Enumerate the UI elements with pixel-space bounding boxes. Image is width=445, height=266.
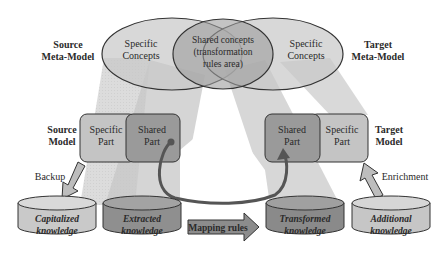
enrichment-arrow xyxy=(360,163,383,199)
transformation-start-dot xyxy=(168,139,175,146)
target-shared-part-line1: Shared xyxy=(278,124,306,135)
target-specific-part-line2: Part xyxy=(334,136,350,147)
source-meta-model-label-line1: Source xyxy=(53,39,83,50)
shared-concepts-line3: rules area) xyxy=(203,59,243,70)
source-specific-concepts-line2: Concepts xyxy=(122,50,159,61)
enrichment-label: Enrichment xyxy=(382,171,429,182)
source-meta-model-label-line2: Meta-Model xyxy=(42,51,95,62)
database-extracted-line2: knowledge xyxy=(121,226,163,236)
target-specific-concepts-line1: Specific xyxy=(290,38,323,49)
source-model-label-line2: Model xyxy=(48,136,75,147)
source-shared-part-line2: Part xyxy=(144,136,160,147)
mapping-rules-label: Mapping rules xyxy=(188,223,248,233)
database-capitalized-line2: knowledge xyxy=(36,226,78,236)
database-transformed-line2: knowledge xyxy=(284,226,326,236)
shared-concepts-line1: Shared concepts xyxy=(192,35,254,45)
arrow-down-left-icon xyxy=(62,162,85,199)
source-specific-concepts-line1: Specific xyxy=(125,38,158,49)
arrow-up-left-icon xyxy=(360,163,383,199)
database-additional-line2: knowledge xyxy=(370,226,412,236)
source-specific-part-line1: Specific xyxy=(90,124,123,135)
backup-label: Backup xyxy=(35,171,66,182)
target-shared-part-line2: Part xyxy=(284,136,300,147)
target-meta-model-label-line2: Meta-Model xyxy=(352,51,405,62)
source-shared-part-line1: Shared xyxy=(138,124,166,135)
source-model-label-line1: Source xyxy=(47,124,77,135)
target-meta-model-label-line1: Target xyxy=(364,39,393,50)
database-capitalized-line1: Capitalized xyxy=(35,214,79,224)
transformation-diagram: Specific Concepts Specific Concepts Shar… xyxy=(0,0,445,266)
target-model-label-line2: Model xyxy=(375,136,402,147)
backup-arrow xyxy=(62,162,85,199)
database-extracted-line1: Extracted xyxy=(122,214,161,224)
database-transformed-line1: Transformed xyxy=(280,214,331,224)
source-specific-part-line2: Part xyxy=(98,136,114,147)
database-additional-line1: Additional xyxy=(369,214,412,224)
target-model-label-line1: Target xyxy=(375,124,404,135)
target-specific-part-line1: Specific xyxy=(326,124,359,135)
target-specific-concepts-line2: Concepts xyxy=(287,50,324,61)
shared-concepts-line2: (transformation xyxy=(193,47,252,58)
source-model xyxy=(80,114,180,162)
